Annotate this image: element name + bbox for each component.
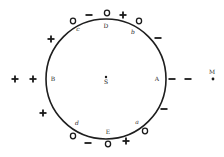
neutral-charge-icon xyxy=(136,18,141,24)
point-label-d: d xyxy=(75,119,79,126)
plus-charge-icon xyxy=(40,110,47,117)
plus-charge-icon xyxy=(120,12,127,19)
neutral-charge-icon xyxy=(142,128,147,134)
neutral-charge-icon xyxy=(104,10,109,16)
point-label-A: A xyxy=(154,75,160,82)
diagram-canvas: S M ABDEabcd xyxy=(0,0,224,157)
neutral-charge-icon xyxy=(70,133,75,139)
external-point-m: M xyxy=(209,68,215,80)
point-label-c: c xyxy=(76,25,80,32)
point-label-D: D xyxy=(104,22,109,29)
external-dot-icon xyxy=(212,78,215,81)
plus-charge-icon xyxy=(30,76,37,83)
point-label-E: E xyxy=(106,128,110,135)
point-label-b: b xyxy=(131,28,135,35)
point-label-a: a xyxy=(135,118,139,125)
plus-charge-icon xyxy=(12,76,19,83)
charge-signs xyxy=(12,10,192,147)
plus-charge-icon xyxy=(123,138,130,145)
neutral-charge-icon xyxy=(70,18,75,24)
center-label: S xyxy=(104,78,108,85)
point-label-B: B xyxy=(51,75,56,82)
neutral-charge-icon xyxy=(105,141,110,147)
electrostatic-induction-diagram: S M ABDEabcd xyxy=(0,0,224,157)
plus-charge-icon xyxy=(48,36,55,43)
external-label: M xyxy=(209,68,215,75)
center-point-s: S xyxy=(104,76,108,85)
